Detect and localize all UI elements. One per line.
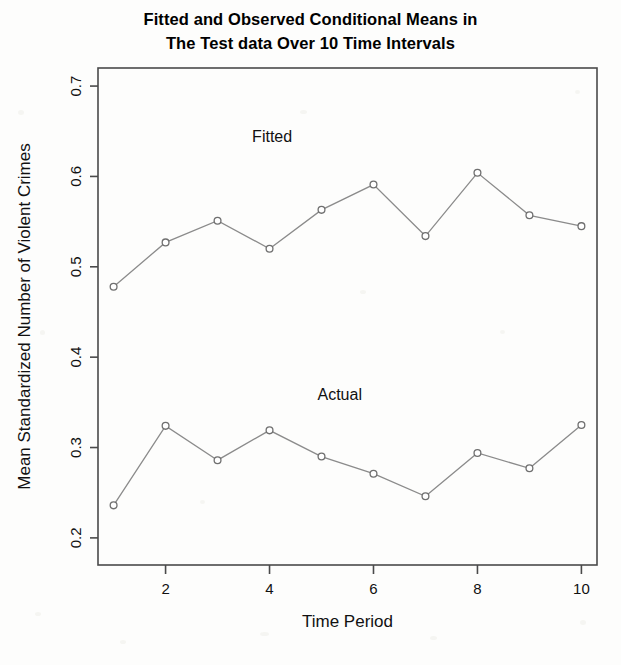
data-point-fitted-5 [318, 206, 325, 213]
x-tick-label: 6 [369, 580, 377, 597]
y-tick-label: 0.6 [68, 166, 85, 187]
data-point-actual-1 [110, 502, 117, 509]
paper-speck [360, 290, 366, 294]
data-point-fitted-8 [474, 169, 481, 176]
data-point-fitted-3 [214, 217, 221, 224]
paper-speck [120, 640, 126, 644]
data-point-fitted-1 [110, 283, 117, 290]
y-axis-title: Mean Standardized Number of Violent Crim… [15, 143, 34, 489]
data-point-actual-4 [266, 427, 273, 434]
data-point-actual-2 [162, 422, 169, 429]
y-tick-label: 0.7 [67, 76, 84, 97]
series-annotation-actual: Actual [317, 386, 361, 403]
paper-speck [260, 632, 269, 636]
paper-speck [575, 90, 580, 94]
x-tick-label: 10 [573, 580, 590, 597]
paper-speck [18, 110, 24, 115]
y-tick-label: 0.2 [68, 527, 85, 548]
paper-speck [500, 330, 505, 334]
y-tick-label: 0.5 [68, 256, 85, 277]
paper-speck [35, 612, 41, 616]
series-line-actual [114, 425, 582, 505]
series-line-fitted [114, 173, 582, 287]
chart-figure: Fitted and Observed Conditional Means in… [0, 0, 621, 665]
data-point-fitted-9 [526, 212, 533, 219]
data-point-actual-7 [422, 493, 429, 500]
data-point-fitted-10 [578, 223, 585, 230]
data-point-fitted-2 [162, 239, 169, 246]
x-tick-label: 8 [473, 580, 481, 597]
data-point-actual-5 [318, 453, 325, 460]
paper-speck [40, 330, 45, 335]
y-tick-label: 0.4 [68, 347, 85, 368]
data-point-actual-9 [526, 465, 533, 472]
data-point-fitted-7 [422, 233, 429, 240]
data-point-fitted-6 [370, 181, 377, 188]
x-axis-title: Time Period [302, 612, 393, 631]
data-point-actual-8 [474, 450, 481, 457]
x-tick-label: 2 [161, 580, 169, 597]
x-tick-label: 4 [265, 580, 273, 597]
y-tick-label: 0.3 [68, 437, 85, 458]
paper-speck [200, 500, 205, 504]
paper-speck [580, 620, 586, 625]
data-point-actual-10 [578, 422, 585, 429]
data-point-actual-6 [370, 470, 377, 477]
data-point-actual-3 [214, 457, 221, 464]
data-point-fitted-4 [266, 245, 273, 252]
paper-speck [300, 110, 307, 114]
plot-box-border [98, 68, 597, 565]
series-annotation-fitted: Fitted [252, 128, 292, 145]
plot-area: 0.20.30.40.50.60.7246810Time PeriodMean … [0, 0, 621, 665]
paper-speck [430, 636, 437, 640]
